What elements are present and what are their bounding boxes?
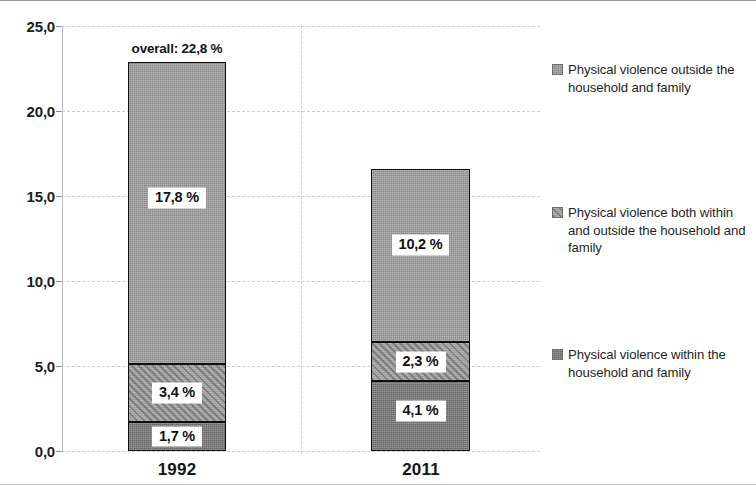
x-axis-label-2011: 2011	[402, 460, 440, 480]
bar-2011[interactable]: 10,2 % 2,3 % 4,1 %	[371, 169, 470, 451]
segment-value-label: 1,7 %	[152, 426, 202, 447]
segment-2011-outside[interactable]: 10,2 %	[371, 169, 470, 342]
bar-1992[interactable]: overall: 22,8 % 17,8 % 3,4 % 1,7 %	[128, 63, 226, 451]
gridline	[62, 26, 540, 27]
segment-value-label: 17,8 %	[148, 188, 206, 209]
stacked-bar-chart: 25,0 20,0 15,0 10,0 5,0 0,0 overall: 22,…	[0, 0, 756, 485]
x-axis-label-1992: 1992	[158, 460, 197, 480]
segment-fill-light	[129, 63, 225, 364]
overall-annotation-1992: overall: 22,8 %	[132, 41, 223, 56]
legend-label: Physical violence within the household a…	[568, 346, 756, 381]
segment-1992-both[interactable]: 3,4 %	[128, 364, 226, 422]
plot-area: overall: 22,8 % 17,8 % 3,4 % 1,7 %	[62, 26, 540, 451]
legend-swatch-dark-icon	[552, 349, 563, 360]
y-tick-label: 20,0	[5, 103, 55, 120]
legend-swatch-hatched-icon	[552, 207, 563, 218]
y-tick-label: 10,0	[5, 273, 55, 290]
legend-item-within[interactable]: Physical violence within the household a…	[552, 346, 756, 381]
y-tick-label: 15,0	[5, 188, 55, 205]
segment-value-label: 10,2 %	[392, 235, 450, 256]
legend-label: Physical violence both within and outsid…	[568, 204, 756, 257]
chart-legend: Physical violence outside the household …	[552, 1, 756, 485]
y-axis: 25,0 20,0 15,0 10,0 5,0 0,0	[0, 1, 55, 485]
legend-label: Physical violence outside the household …	[568, 61, 756, 96]
y-tick-label: 5,0	[5, 358, 55, 375]
segment-1992-outside[interactable]: 17,8 %	[128, 62, 226, 365]
segment-2011-both[interactable]: 2,3 %	[371, 342, 470, 381]
gridline	[62, 451, 540, 452]
segment-2011-within[interactable]: 4,1 %	[371, 381, 470, 451]
y-tick-label: 0,0	[5, 443, 55, 460]
legend-swatch-light-icon	[552, 64, 563, 75]
segment-1992-within[interactable]: 1,7 %	[128, 422, 226, 451]
segment-value-label: 2,3 %	[395, 351, 445, 372]
segment-value-label: 4,1 %	[395, 400, 445, 421]
y-tick-label: 25,0	[5, 18, 55, 35]
legend-item-both[interactable]: Physical violence both within and outsid…	[552, 204, 756, 257]
segment-value-label: 3,4 %	[152, 383, 202, 404]
legend-item-outside[interactable]: Physical violence outside the household …	[552, 61, 756, 96]
